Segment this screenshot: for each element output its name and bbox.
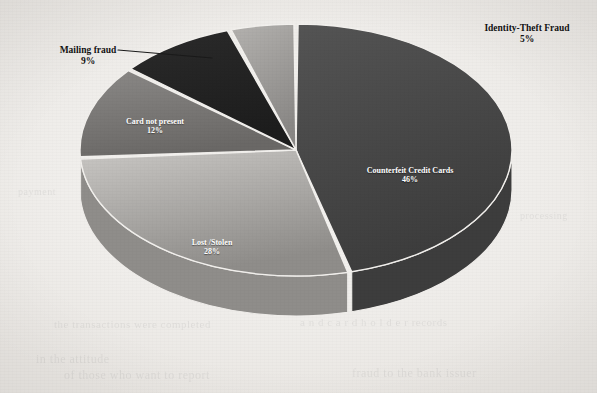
pie-chart-3d [0,0,597,393]
pie-slices [80,24,512,276]
